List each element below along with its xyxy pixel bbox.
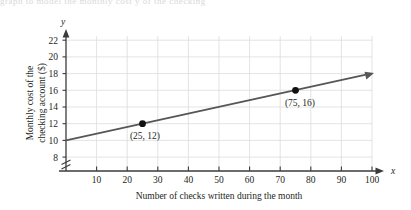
- x-tick-label: 10: [92, 175, 102, 185]
- x-tick-label: 40: [184, 175, 194, 185]
- y-axis-title: Monthly cost of the checking account ($): [25, 63, 48, 143]
- y-tick-label: 14: [49, 102, 59, 112]
- x-tick-label: 60: [245, 175, 255, 185]
- data-point-label: (25, 12): [130, 131, 160, 142]
- grid-lines: [66, 36, 372, 170]
- y-axis-title-line1: Monthly cost of the: [25, 66, 35, 141]
- x-tick-label: 50: [214, 175, 224, 185]
- trend-line-arrowhead: [365, 72, 375, 80]
- x-tick-label: 80: [306, 175, 316, 185]
- data-point-label: (75, 16): [285, 98, 315, 109]
- y-axis-arrowhead: [63, 29, 70, 38]
- y-tick-label: 10: [49, 136, 59, 146]
- x-axis-arrowhead: [376, 168, 385, 175]
- y-tick-label: 22: [49, 36, 59, 46]
- x-tick-label: 70: [275, 175, 285, 185]
- y-tick-label: 8: [53, 153, 58, 163]
- trend-line: [66, 75, 366, 141]
- x-tick-label: 30: [153, 175, 163, 185]
- data-point[interactable]: [139, 120, 146, 127]
- chart-figure: 22 20 18 16 14 12 10 8 10 20 30 40 50 60…: [0, 0, 411, 210]
- y-tick-labels: 22 20 18 16 14 12 10 8: [49, 36, 59, 163]
- x-tick-label: 90: [337, 175, 347, 185]
- x-axis-title: Number of checks written during the mont…: [136, 191, 303, 201]
- y-tick-label: 20: [49, 52, 59, 62]
- axes: [59, 34, 376, 171]
- y-tick-label: 16: [49, 86, 59, 96]
- y-tick-label: 18: [49, 69, 59, 79]
- y-tick-label: 12: [49, 119, 59, 129]
- x-tick-labels: 10 20 30 40 50 60 70 80 90 100: [92, 175, 380, 185]
- y-axis-variable-label: y: [60, 17, 66, 27]
- data-point[interactable]: [292, 87, 299, 94]
- x-axis-variable-label: x: [390, 166, 396, 176]
- x-tick-label: 20: [122, 175, 132, 185]
- y-axis-title-line2: checking account ($): [37, 63, 48, 143]
- chart-svg: 22 20 18 16 14 12 10 8 10 20 30 40 50 60…: [0, 0, 411, 210]
- x-axis-ticks: [97, 167, 372, 172]
- x-tick-label: 100: [365, 175, 380, 185]
